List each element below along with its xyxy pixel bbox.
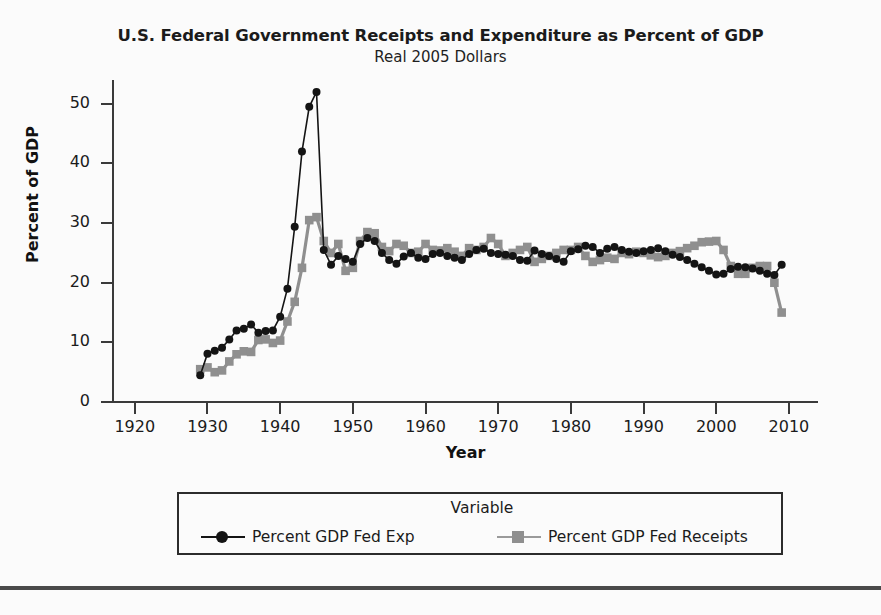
x-tick-label-2010: 2010 [754, 417, 824, 436]
data-point [400, 253, 408, 261]
data-point [545, 252, 553, 260]
data-point [414, 254, 422, 262]
page-title: U.S. Federal Government Receipts and Exp… [0, 26, 881, 45]
x-axis-title: Year [113, 443, 818, 462]
data-point [211, 347, 219, 355]
y-tick-10 [101, 341, 112, 343]
footer-divider [0, 586, 881, 590]
x-tick-1970 [497, 403, 499, 414]
data-point [334, 252, 342, 260]
x-tick-2010 [788, 403, 790, 414]
data-point [683, 256, 691, 264]
data-point [320, 246, 328, 254]
series-canvas [113, 80, 818, 402]
data-point [283, 317, 292, 326]
x-tick-1920 [134, 403, 136, 414]
data-point [480, 245, 488, 253]
data-point [778, 261, 786, 269]
legend-item-receipts[interactable]: Percent GDP Fed Receipts [497, 525, 748, 549]
data-point [756, 267, 764, 275]
data-point [618, 246, 626, 254]
data-point [225, 335, 233, 343]
data-point [349, 258, 357, 266]
data-point [661, 247, 669, 255]
data-point [567, 247, 575, 255]
data-point [290, 298, 299, 307]
data-point [712, 270, 720, 278]
data-point [422, 255, 430, 263]
data-point [203, 350, 211, 358]
data-point [625, 248, 633, 256]
data-point [312, 213, 321, 222]
series-expenditure [196, 88, 785, 379]
data-point [581, 242, 589, 250]
data-point [451, 254, 459, 262]
x-tick-1960 [425, 403, 427, 414]
series-receipts [196, 213, 786, 377]
legend-label-receipts: Percent GDP Fed Receipts [548, 528, 748, 546]
data-point [763, 262, 772, 271]
x-tick-2000 [715, 403, 717, 414]
y-tick-50 [101, 103, 112, 105]
x-tick-label-1920: 1920 [100, 417, 170, 436]
data-point [327, 249, 336, 258]
y-tick-20 [101, 282, 112, 284]
data-point [741, 263, 749, 271]
data-point [385, 256, 393, 264]
x-tick-1990 [643, 403, 645, 414]
data-point [589, 243, 597, 251]
x-tick-label-1950: 1950 [318, 417, 388, 436]
data-point [596, 249, 604, 257]
y-tick-label-30: 30 [30, 212, 90, 231]
data-point [574, 245, 582, 253]
data-point [538, 250, 546, 258]
data-point [371, 237, 379, 245]
data-point [770, 271, 778, 279]
data-point [719, 246, 728, 255]
data-point [698, 263, 706, 271]
data-point [610, 243, 618, 251]
data-point [640, 247, 648, 255]
data-point [276, 313, 284, 321]
data-point [734, 263, 742, 271]
data-point [443, 252, 451, 260]
circle-marker-icon [201, 529, 245, 545]
data-point [690, 260, 698, 268]
data-point [465, 250, 473, 258]
data-point [356, 240, 364, 248]
square-marker-icon [497, 529, 541, 545]
data-point [516, 256, 524, 264]
data-point [429, 250, 437, 258]
x-tick-label-1940: 1940 [245, 417, 315, 436]
data-point [632, 249, 640, 257]
data-point [552, 255, 560, 263]
data-point [342, 255, 350, 263]
data-point [436, 249, 444, 257]
data-point [501, 251, 509, 259]
data-point [196, 371, 204, 379]
data-point [603, 245, 611, 253]
data-point [712, 237, 721, 246]
data-point [218, 344, 226, 352]
data-point [654, 244, 662, 252]
chart-page: U.S. Federal Government Receipts and Exp… [0, 0, 881, 615]
data-point [262, 327, 270, 335]
data-point [749, 264, 757, 272]
data-point [472, 246, 480, 254]
data-point [494, 240, 503, 249]
y-tick-label-10: 10 [30, 331, 90, 350]
x-tick-label-2000: 2000 [681, 417, 751, 436]
data-point [509, 252, 517, 260]
data-point [298, 148, 306, 156]
data-point [363, 234, 371, 242]
data-point [676, 253, 684, 261]
series-line [200, 92, 781, 375]
y-tick-label-0: 0 [30, 391, 90, 410]
data-point [487, 249, 495, 257]
data-point [458, 256, 466, 264]
legend-item-expenditure[interactable]: Percent GDP Fed Exp [201, 525, 415, 549]
data-point [523, 243, 532, 252]
data-point [370, 229, 379, 238]
y-tick-label-40: 40 [30, 152, 90, 171]
x-tick-label-1980: 1980 [536, 417, 606, 436]
